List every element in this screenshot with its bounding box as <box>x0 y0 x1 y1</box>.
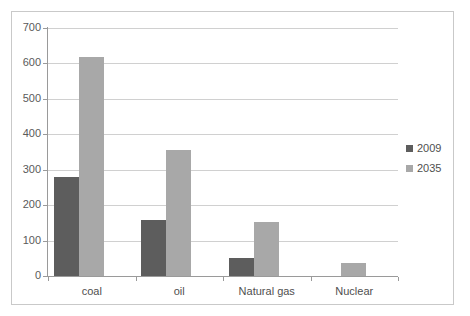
value-axis-tick-label-200: 200 <box>7 199 41 210</box>
value-axis-tick-label-600: 600 <box>7 57 41 68</box>
value-axis-tick-700 <box>43 28 47 29</box>
value-axis-tick-100 <box>43 241 47 242</box>
value-axis-tick-label-400: 400 <box>7 128 41 139</box>
category-label-coal: coal <box>48 285 136 297</box>
bar-natural-gas-2009 <box>229 258 254 276</box>
value-axis-tick-label-500: 500 <box>7 93 41 104</box>
chart-legend: 20092035 <box>406 140 452 180</box>
legend-item-2009[interactable]: 2009 <box>406 140 452 156</box>
category-label-oil: oil <box>136 285 224 297</box>
bar-coal-2035 <box>79 57 104 276</box>
value-axis-tick-0 <box>43 276 47 277</box>
legend-item-2035[interactable]: 2035 <box>406 160 452 176</box>
bar-natural-gas-2035 <box>254 222 279 276</box>
legend-label-2009: 2009 <box>417 143 441 154</box>
value-axis-tick-label-300: 300 <box>7 164 41 175</box>
value-axis-tick-600 <box>43 63 47 64</box>
legend-swatch-2035 <box>406 165 413 172</box>
value-axis-tick-300 <box>43 170 47 171</box>
bar-oil-2035 <box>166 150 191 276</box>
category-axis-tick-1 <box>136 277 137 281</box>
category-axis-tick-0 <box>48 277 49 281</box>
category-axis-tick-4 <box>398 277 399 281</box>
bar-oil-2009 <box>141 220 166 276</box>
bars-layer <box>48 28 398 276</box>
value-axis-tick-label-700: 700 <box>7 22 41 33</box>
value-axis-tick-label-0: 0 <box>7 270 41 281</box>
legend-swatch-2009 <box>406 145 413 152</box>
bar-coal-2009 <box>54 177 79 276</box>
category-axis-tick-3 <box>311 277 312 281</box>
category-axis-tick-2 <box>223 277 224 281</box>
bar-nuclear-2035 <box>341 263 366 276</box>
value-axis-tick-label-100: 100 <box>7 235 41 246</box>
legend-label-2035: 2035 <box>417 163 441 174</box>
value-axis-tick-400 <box>43 134 47 135</box>
value-axis-tick-200 <box>43 205 47 206</box>
value-axis-tick-500 <box>43 99 47 100</box>
category-label-nuclear: Nuclear <box>311 285 399 297</box>
category-label-natural-gas: Natural gas <box>223 285 311 297</box>
value-axis-labels: 0100200300400500600700 <box>0 0 41 316</box>
